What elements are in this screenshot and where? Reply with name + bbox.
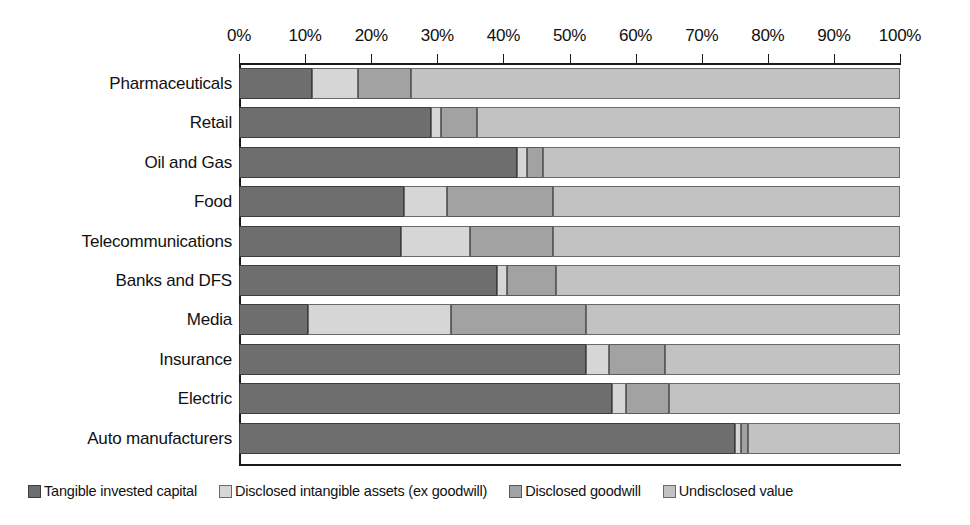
bar-row[interactable]: [239, 68, 900, 99]
y-category-label: Insurance: [0, 344, 232, 375]
bar-row[interactable]: [239, 423, 900, 454]
x-tick-mark: [702, 54, 703, 63]
chart-legend: Tangible invested capitalDisclosed intan…: [28, 478, 948, 504]
x-tick-label: 10%: [289, 26, 322, 46]
bar-row[interactable]: [239, 265, 900, 296]
bar-segment[interactable]: [239, 383, 612, 414]
x-tick-label: 80%: [751, 26, 784, 46]
legend-label: Disclosed intangible assets (ex goodwill…: [235, 483, 487, 499]
x-tick-mark: [305, 54, 306, 63]
legend-swatch-icon: [28, 485, 41, 498]
bar-segment[interactable]: [308, 304, 450, 335]
bar-segment[interactable]: [239, 147, 517, 178]
x-tick-label: 50%: [553, 26, 586, 46]
bar-segment[interactable]: [735, 423, 742, 454]
legend-item[interactable]: Disclosed intangible assets (ex goodwill…: [219, 483, 487, 499]
legend-swatch-icon: [509, 485, 522, 498]
bar-segment[interactable]: [447, 186, 553, 217]
x-tick-label: 30%: [421, 26, 454, 46]
bar-segment[interactable]: [441, 107, 477, 138]
x-tick-mark: [636, 54, 637, 63]
x-tick-label: 40%: [487, 26, 520, 46]
x-tick-mark: [239, 54, 240, 63]
bar-segment[interactable]: [609, 344, 665, 375]
x-tick-mark: [437, 54, 438, 63]
x-tick-label: 90%: [817, 26, 850, 46]
x-tick-label: 0%: [227, 26, 251, 46]
x-tick-label: 100%: [879, 26, 921, 46]
legend-label: Disclosed goodwill: [525, 483, 641, 499]
y-category-label: Food: [0, 186, 232, 217]
stacked-bar-chart: 0%10%20%30%40%50%60%70%80%90%100% Pharma…: [0, 0, 970, 525]
bar-segment[interactable]: [358, 68, 411, 99]
bar-segment[interactable]: [612, 383, 625, 414]
x-tick-label: 70%: [685, 26, 718, 46]
y-axis-category-labels: PharmaceuticalsRetailOil and GasFoodTele…: [0, 64, 232, 464]
y-category-label: Pharmaceuticals: [0, 68, 232, 99]
bar-segment[interactable]: [431, 107, 441, 138]
bar-row[interactable]: [239, 383, 900, 414]
bar-segment[interactable]: [477, 107, 900, 138]
y-category-label: Auto manufacturers: [0, 423, 232, 454]
legend-swatch-icon: [219, 485, 232, 498]
bar-segment[interactable]: [239, 226, 401, 257]
bar-segment[interactable]: [626, 383, 669, 414]
x-tick-label: 20%: [355, 26, 388, 46]
bar-segment[interactable]: [451, 304, 587, 335]
bar-segment[interactable]: [556, 265, 900, 296]
bar-row[interactable]: [239, 344, 900, 375]
y-category-label: Electric: [0, 383, 232, 414]
bar-segment[interactable]: [741, 423, 748, 454]
x-tick-mark: [503, 54, 504, 63]
bar-segment[interactable]: [586, 304, 900, 335]
legend-label: Tangible invested capital: [44, 483, 197, 499]
bar-segment[interactable]: [553, 226, 900, 257]
bar-segment[interactable]: [543, 147, 900, 178]
bar-row[interactable]: [239, 226, 900, 257]
bar-row[interactable]: [239, 304, 900, 335]
bar-segment[interactable]: [239, 68, 312, 99]
bar-segment[interactable]: [239, 265, 497, 296]
legend-item[interactable]: Disclosed goodwill: [509, 483, 641, 499]
x-tick-mark: [768, 54, 769, 63]
bar-segment[interactable]: [553, 186, 900, 217]
y-category-label: Banks and DFS: [0, 265, 232, 296]
y-category-label: Retail: [0, 107, 232, 138]
bar-segment[interactable]: [411, 68, 900, 99]
legend-label: Undisclosed value: [679, 483, 793, 499]
x-tick-mark: [570, 54, 571, 63]
bar-segment[interactable]: [497, 265, 507, 296]
y-category-label: Media: [0, 304, 232, 335]
bar-segment[interactable]: [665, 344, 900, 375]
bar-segment[interactable]: [527, 147, 544, 178]
bar-segment[interactable]: [470, 226, 553, 257]
bar-segment[interactable]: [748, 423, 900, 454]
bars-layer: [239, 64, 900, 464]
x-tick-mark: [900, 54, 901, 63]
bar-segment[interactable]: [404, 186, 447, 217]
x-tick-label: 60%: [619, 26, 652, 46]
bar-segment[interactable]: [507, 265, 557, 296]
bar-segment[interactable]: [312, 68, 358, 99]
bar-segment[interactable]: [517, 147, 527, 178]
bar-segment[interactable]: [586, 344, 609, 375]
x-tick-mark: [834, 54, 835, 63]
bar-segment[interactable]: [239, 344, 586, 375]
bar-segment[interactable]: [239, 423, 735, 454]
x-tick-mark: [371, 54, 372, 63]
x-axis-line-bottom: [239, 464, 901, 466]
bar-row[interactable]: [239, 107, 900, 138]
y-category-label: Oil and Gas: [0, 147, 232, 178]
bar-row[interactable]: [239, 186, 900, 217]
bar-segment[interactable]: [401, 226, 470, 257]
bar-row[interactable]: [239, 147, 900, 178]
bar-segment[interactable]: [239, 304, 308, 335]
legend-swatch-icon: [663, 485, 676, 498]
legend-item[interactable]: Tangible invested capital: [28, 483, 197, 499]
y-category-label: Telecommunications: [0, 226, 232, 257]
x-axis-tick-labels: 0%10%20%30%40%50%60%70%80%90%100%: [0, 26, 970, 48]
bar-segment[interactable]: [239, 107, 431, 138]
bar-segment[interactable]: [669, 383, 900, 414]
bar-segment[interactable]: [239, 186, 404, 217]
legend-item[interactable]: Undisclosed value: [663, 483, 793, 499]
